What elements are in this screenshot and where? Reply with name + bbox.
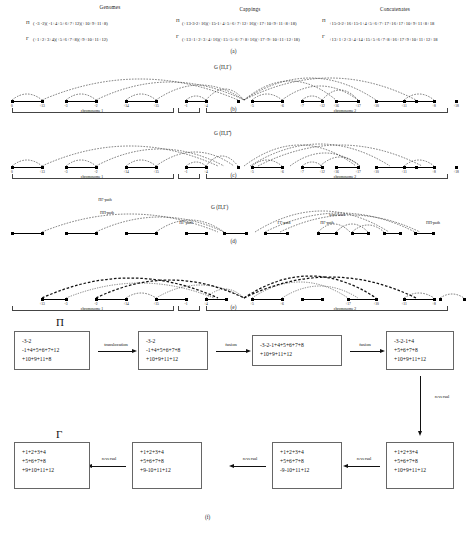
graph-node bbox=[281, 166, 284, 169]
graph-edge bbox=[252, 101, 282, 102]
panel-caption-c: (c) bbox=[0, 172, 467, 178]
column-heading-genomes: Genomes bbox=[40, 4, 180, 10]
box-line: +10+9+11+12 bbox=[394, 466, 453, 475]
arrow-reversal-3 bbox=[234, 466, 266, 467]
graph-edge bbox=[12, 101, 42, 102]
figure-root: Genomes Cappings Concatenates Π ( -3 -2)… bbox=[0, 0, 467, 535]
graph-edge bbox=[415, 233, 433, 234]
graph-edge bbox=[66, 101, 96, 102]
graph-node bbox=[41, 232, 44, 235]
graph-node bbox=[357, 100, 360, 103]
graph-edge bbox=[96, 299, 126, 300]
graph-edge bbox=[66, 167, 96, 168]
op-label-fusion-2: fusion bbox=[359, 342, 370, 347]
graph-node bbox=[95, 100, 98, 103]
box-4: -3-2-1+4 +5+6+7+8 +10+9+11+12 bbox=[386, 331, 454, 370]
box-7: +1+2+3+4 +5+6+7+8 +9-10+11+12 bbox=[132, 442, 202, 489]
graph-node bbox=[439, 298, 442, 301]
graph-node bbox=[286, 232, 289, 235]
graph-node bbox=[433, 298, 436, 301]
path-label: ΠΓ-path bbox=[320, 220, 333, 225]
graph-edge bbox=[126, 101, 156, 102]
panel-d: G (Π,Γ) ΠΓ-path ΠΠ-path ΠΓ-path ΓΓ-path … bbox=[0, 188, 467, 246]
box-line: -1+4+5+6+7+8 bbox=[146, 346, 207, 355]
concatenate-symbol-pi: Π bbox=[322, 18, 326, 23]
graph-edge bbox=[66, 233, 96, 234]
graph-edge bbox=[186, 167, 206, 168]
graph-node bbox=[237, 166, 240, 169]
graph-edge bbox=[302, 299, 322, 300]
path-label: ΠΓ-path bbox=[179, 220, 192, 225]
graph-edge bbox=[126, 167, 156, 168]
capping-symbol-gamma: Γ bbox=[176, 34, 179, 39]
graph-edge bbox=[126, 233, 156, 234]
graph-node bbox=[321, 100, 324, 103]
box-line: +1+2+3+4 bbox=[394, 448, 453, 457]
genome-gamma: (+1+2+3+4)(+5+6+7+8)(+9+10+11+12) bbox=[33, 37, 108, 42]
graph-node bbox=[125, 298, 128, 301]
box-gamma: +1+2+3+4 +5+6+7+8 +9+10+11+12 bbox=[14, 442, 90, 489]
panel-e: +13 -3 -2 +14 +15 -1 +4 +5 +6 +17 +10 +1… bbox=[0, 252, 467, 312]
panel-caption-d: (d) bbox=[0, 238, 467, 244]
box-6: +1+2+3+4 +5+6+7+8 -9-10+11+12 bbox=[272, 442, 342, 489]
box-line: +5+6+7+8 bbox=[280, 457, 341, 466]
graph-node bbox=[281, 100, 284, 103]
column-heading-cappings: Cappings bbox=[180, 6, 320, 12]
op-label-reversal-1: reversal bbox=[435, 394, 450, 399]
graph-node bbox=[225, 298, 228, 301]
graph-node bbox=[281, 298, 284, 301]
genome-symbol-pi: Π bbox=[26, 20, 30, 25]
graph-edge bbox=[12, 167, 42, 168]
capping-symbol-pi: Π bbox=[176, 18, 180, 23]
panel-caption-e: (e) bbox=[0, 304, 467, 310]
arrow-reversal-2 bbox=[348, 466, 380, 467]
box-pi: -3-2 -1+4+5+6+7+12 +10+9+11+8 bbox=[14, 331, 90, 370]
graph-node bbox=[65, 298, 68, 301]
graph-edge bbox=[352, 233, 368, 234]
graph-node bbox=[455, 166, 458, 169]
box-line: -3-2 bbox=[146, 337, 207, 346]
graph-edge bbox=[156, 299, 186, 300]
genome-pi: ( -3 -2)( -1+4+5+6+7+12)(+10+9+11+8) bbox=[33, 21, 108, 26]
graph-node bbox=[41, 166, 44, 169]
graph-node bbox=[335, 232, 338, 235]
box-3: -3-2-1+4+5+6+7+8 +10+9+11+12 bbox=[252, 335, 342, 366]
genome-symbol-gamma: Γ bbox=[26, 36, 29, 41]
path-label: ΠΠ-path bbox=[426, 220, 440, 225]
concatenate-symbol-gamma: Γ bbox=[322, 34, 325, 39]
panel-a: Genomes Cappings Concatenates Π ( -3 -2)… bbox=[0, 4, 467, 54]
graph-edge bbox=[186, 233, 206, 234]
box-line: +9-10+11+12 bbox=[140, 466, 201, 475]
arrow-fusion-2 bbox=[350, 351, 380, 352]
graph-edge bbox=[42, 299, 66, 300]
box-5: +1+2+3+4 +5+6+7+8 +10+9+11+12 bbox=[386, 442, 454, 489]
box-line: +5+6+7+8 bbox=[22, 457, 89, 466]
box-line: +1+2+3+4 bbox=[280, 448, 341, 457]
op-label-reversal-4: reversal bbox=[102, 456, 117, 461]
panel-caption-a: (a) bbox=[0, 48, 467, 54]
box-line: +10+9+11+12 bbox=[146, 355, 207, 364]
graph-node bbox=[185, 298, 188, 301]
label-gamma: Γ bbox=[56, 428, 62, 440]
box-line: +1+2+3+4 bbox=[22, 448, 89, 457]
graph-node bbox=[455, 100, 458, 103]
arrow-translocation bbox=[98, 351, 132, 352]
panel-caption-b: (b) bbox=[0, 106, 467, 112]
capping-gamma: (+13+1+2+3+4+16)(+15+5+6+7+8+16)(+17+9+1… bbox=[182, 37, 300, 42]
graph-node bbox=[205, 232, 208, 235]
graph-edge bbox=[252, 299, 282, 300]
path-label: semi-knot bbox=[329, 212, 345, 217]
op-label-reversal-2: reversal bbox=[357, 456, 372, 461]
box-line: -1+4+5+6+7+12 bbox=[22, 346, 89, 355]
graph-edge bbox=[348, 299, 376, 300]
arrow-reversal-4 bbox=[92, 466, 126, 467]
box-line: +10+9+11+8 bbox=[22, 355, 89, 364]
graph-node bbox=[155, 100, 158, 103]
box-line: -3-2-1+4+5+6+7+8 bbox=[260, 341, 341, 350]
graph-node bbox=[41, 100, 44, 103]
concatenate-gamma: +13+1+2+3+4+14+15+5+6+7+8+16+17+9+10+11+… bbox=[329, 37, 437, 42]
graph-edge bbox=[252, 167, 282, 168]
graph-node bbox=[463, 298, 466, 301]
box-line: -3-2 bbox=[22, 337, 89, 346]
graph-edge bbox=[265, 233, 287, 234]
